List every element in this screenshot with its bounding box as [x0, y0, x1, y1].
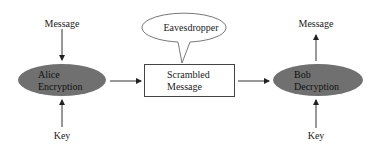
alice-key-label: Key: [54, 130, 71, 141]
scrambled-label-line1: Scrambled: [167, 69, 210, 80]
scrambled-label-line2: Message: [167, 81, 202, 92]
alice-label-line1: Alice: [38, 69, 60, 80]
eavesdropper-label: Eavesdropper: [164, 22, 219, 33]
alice-label-line2: Encryption: [38, 81, 82, 92]
bob-key-label: Key: [308, 130, 325, 141]
bob-message-label: Message: [299, 18, 334, 29]
bob-label-line2: Decryption: [294, 81, 339, 92]
eavesdropper-bubble: [142, 13, 226, 63]
alice-message-label: Message: [45, 18, 80, 29]
bob-label-line1: Bob: [294, 69, 311, 80]
